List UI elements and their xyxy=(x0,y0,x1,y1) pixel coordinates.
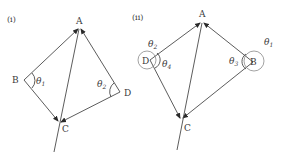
diagram-ii-label: (ii) xyxy=(132,13,143,22)
angle-theta2-label: θ2 xyxy=(148,39,157,50)
diagram-ii: (ii) A D B C θ2 θ4 θ3 θ1 xyxy=(132,9,273,150)
diagram-i: (i) A B C D θ1 θ2 xyxy=(7,15,131,152)
point-c-label: C xyxy=(62,124,69,134)
point-b-label: B xyxy=(250,57,257,67)
point-d-label: D xyxy=(142,56,149,66)
edge-b-c xyxy=(183,62,253,118)
angle-theta3-label: θ3 xyxy=(229,56,238,67)
edge-d-a xyxy=(150,23,200,60)
angle-theta4-label: θ4 xyxy=(162,59,171,70)
point-b-label: B xyxy=(12,75,19,85)
diagram-i-label: (i) xyxy=(7,15,16,24)
angle-theta1-label: θ1 xyxy=(36,76,45,87)
point-a-label: A xyxy=(198,9,206,19)
point-d-label: D xyxy=(124,88,131,98)
angle-theta2-label: θ2 xyxy=(97,79,106,90)
point-a-label: A xyxy=(75,16,83,26)
point-c-label: C xyxy=(184,123,191,133)
angle-arc-theta1 xyxy=(32,73,35,88)
angle-theta1-label: θ1 xyxy=(264,37,273,48)
diagram-canvas: (i) A B C D θ1 θ2 (ii) xyxy=(0,0,284,162)
